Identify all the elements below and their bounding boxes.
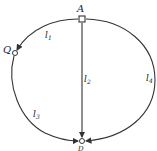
edge-l3-label: l3 bbox=[33, 109, 40, 120]
node-q-circle bbox=[13, 51, 18, 56]
edge-l4 bbox=[86, 19, 155, 141]
graph-diagram: A Q D l1 l2 l3 l4 bbox=[0, 0, 157, 151]
node-d-label: D bbox=[77, 145, 84, 151]
node-d-circle bbox=[80, 139, 85, 144]
edge-l1-label: l1 bbox=[45, 30, 52, 41]
node-a-label: A bbox=[76, 3, 84, 14]
edge-l2-label: l2 bbox=[84, 74, 91, 85]
edge-l3 bbox=[12, 56, 78, 141]
edge-l4-label: l4 bbox=[146, 73, 153, 84]
node-a-square bbox=[79, 16, 85, 22]
node-q-label: Q bbox=[3, 44, 11, 55]
